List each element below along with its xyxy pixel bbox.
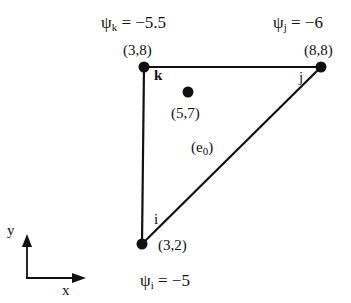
- y-axis-label: y: [7, 223, 15, 238]
- psi-i-label: ψi = −5: [140, 272, 190, 291]
- edge-k-i: [142, 67, 144, 244]
- interior-point-coord: (5,7): [171, 106, 200, 121]
- edge-i-j: [142, 67, 321, 244]
- psi-symbol: ψ: [273, 13, 284, 32]
- element-label-open: (e: [191, 139, 203, 155]
- psi-subscript: i: [151, 279, 154, 291]
- psi-k-label: ψk = −5.5: [101, 14, 166, 33]
- node-i-letter: i: [154, 212, 158, 227]
- psi-subscript: j: [284, 21, 287, 33]
- node-j-coord: (8,8): [304, 43, 333, 58]
- node-k-letter: k: [154, 68, 162, 83]
- psi-value: = −5: [158, 271, 190, 290]
- x-axis-arrow-icon: [72, 273, 86, 283]
- y-axis-arrow-icon: [22, 234, 32, 247]
- node-i-dot: [137, 239, 148, 250]
- x-axis-label: x: [62, 283, 70, 298]
- node-k-coord: (3,8): [123, 43, 152, 58]
- psi-symbol: ψ: [101, 13, 112, 32]
- node-j-dot: [316, 62, 327, 73]
- psi-subscript: k: [112, 21, 118, 33]
- psi-symbol: ψ: [140, 271, 151, 290]
- triangle-element: [142, 67, 321, 244]
- node-k-dot: [139, 62, 150, 73]
- psi-value: = −6: [291, 13, 323, 32]
- element-label: (e0): [191, 140, 213, 157]
- triangle-element-diagram: [0, 0, 351, 303]
- element-label-close: ): [208, 139, 213, 155]
- axes-indicator: [22, 234, 86, 283]
- interior-point-dot: [183, 87, 194, 98]
- node-j-letter: j: [299, 70, 303, 85]
- psi-value: = −5.5: [121, 13, 166, 32]
- psi-j-label: ψj = −6: [273, 14, 323, 33]
- node-i-coord: (3,2): [158, 238, 187, 253]
